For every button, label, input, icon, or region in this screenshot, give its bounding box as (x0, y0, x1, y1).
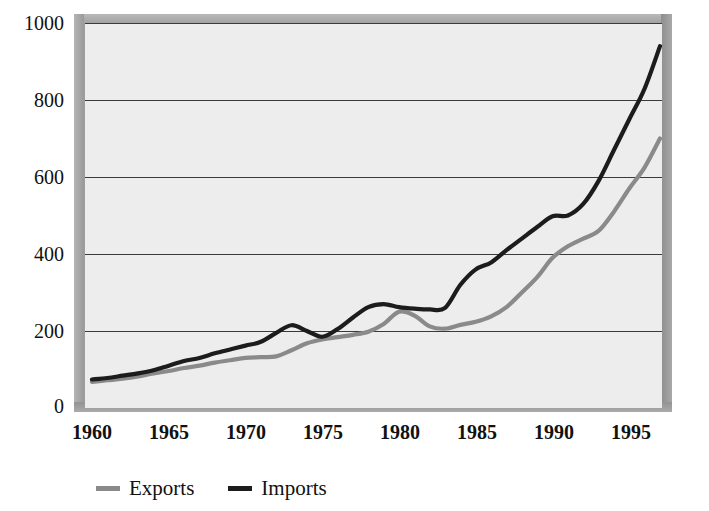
x-tick-1985: 1985 (447, 421, 507, 444)
x-tick-1980: 1980 (370, 421, 430, 444)
x-tick-1995: 1995 (601, 421, 661, 444)
chart-legend: Exports Imports (96, 476, 327, 501)
series-line-exports (92, 139, 660, 382)
y-tick-1000: 1000 (2, 12, 64, 35)
gridlines (85, 24, 662, 332)
x-tick-1990: 1990 (524, 421, 584, 444)
x-tick-1975: 1975 (293, 421, 353, 444)
y-tick-600: 600 (2, 166, 64, 189)
y-tick-0: 0 (2, 395, 64, 418)
y-tick-400: 400 (2, 243, 64, 266)
legend-item-imports: Imports (228, 476, 326, 501)
line-chart: 1000 800 600 400 200 0 1960 1965 1970 19… (0, 0, 709, 511)
x-tick-1960: 1960 (62, 421, 122, 444)
plot-area (85, 23, 662, 408)
x-tick-1970: 1970 (216, 421, 276, 444)
y-tick-800: 800 (2, 89, 64, 112)
x-tick-1965: 1965 (139, 421, 199, 444)
legend-swatch-exports (96, 486, 120, 491)
plot-svg (85, 23, 662, 408)
legend-item-exports: Exports (96, 476, 194, 501)
legend-label-exports: Exports (129, 476, 194, 501)
frame-bevel-left (74, 14, 84, 412)
y-tick-200: 200 (2, 320, 64, 343)
frame-bevel-right (661, 14, 672, 412)
legend-label-imports: Imports (261, 476, 326, 501)
frame-bevel-top (74, 14, 672, 23)
legend-swatch-imports (228, 486, 252, 491)
